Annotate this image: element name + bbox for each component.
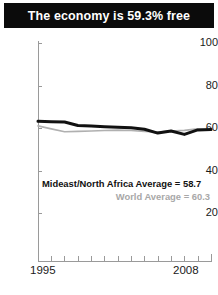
annotation-region-average: Mideast/North Africa Average = 58.7 <box>42 178 201 190</box>
annotation-world-average: World Average = 60.3 <box>42 191 210 203</box>
chart-container: The economy is 59.3% free 100 80 60 40 2… <box>0 0 218 295</box>
series-layer <box>0 0 218 295</box>
plot-area: 100 80 60 40 20 1995 2008 Mideast/North <box>0 0 218 295</box>
